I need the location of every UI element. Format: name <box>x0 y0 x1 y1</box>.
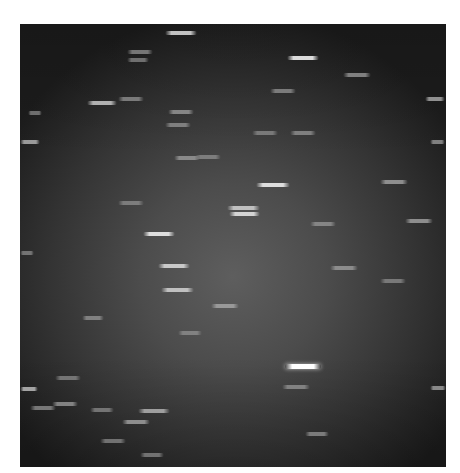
star-streak <box>425 97 445 101</box>
star-streak <box>20 387 38 391</box>
star-streak <box>55 376 81 380</box>
star-streak <box>20 140 40 144</box>
star-streak <box>290 131 316 135</box>
star-streak <box>227 206 260 210</box>
star-streak <box>143 232 175 236</box>
star-streak <box>380 279 406 283</box>
star-streak <box>82 316 104 320</box>
star-streak <box>343 73 371 77</box>
star-streak <box>140 453 164 457</box>
star-streak <box>252 131 278 135</box>
star-streak <box>285 364 321 369</box>
star-streak <box>161 288 194 292</box>
star-streak <box>165 123 191 127</box>
star-streak <box>405 219 433 223</box>
star-streak <box>28 111 42 115</box>
star-streak <box>430 386 446 390</box>
star-streak <box>158 264 190 268</box>
star-streak <box>168 110 194 114</box>
star-streak <box>118 97 144 101</box>
star-streak <box>30 406 56 410</box>
star-streak <box>100 439 126 443</box>
star-streak <box>310 222 336 226</box>
star-streak <box>178 331 202 335</box>
star-streak <box>20 251 34 255</box>
star-streak <box>282 385 310 389</box>
star-streak <box>52 402 78 406</box>
star-streak <box>287 56 319 60</box>
star-streak <box>127 50 153 54</box>
star-streak <box>305 432 329 436</box>
star-streak <box>165 31 197 35</box>
star-streak <box>380 180 408 184</box>
star-streak <box>229 212 260 216</box>
star-streak <box>127 58 149 62</box>
star-streak <box>430 140 445 144</box>
star-streak <box>138 409 170 413</box>
star-streak <box>90 408 114 412</box>
star-streak <box>174 156 200 160</box>
star-streak <box>122 420 150 424</box>
star-streak <box>118 201 144 205</box>
star-streak <box>87 101 117 105</box>
star-streak <box>256 183 290 187</box>
star-streak <box>270 89 296 93</box>
star-streak <box>211 304 239 308</box>
star-streak <box>330 266 358 270</box>
star-trail-image <box>20 24 446 467</box>
